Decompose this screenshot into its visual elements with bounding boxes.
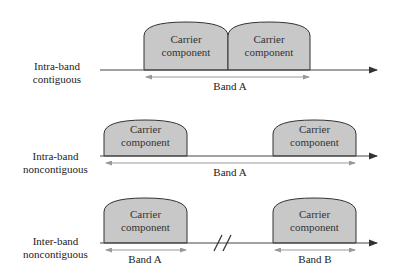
band-b-label: Band B [275,253,355,265]
carrier-component-label: Carrier component [104,208,187,234]
row-label-line: noncontiguous [8,248,103,261]
band-a-label: Band A [105,253,185,265]
cc-line: component [273,136,356,149]
cc-line: component [104,221,187,234]
row-label: Intra-band contiguous [12,60,102,86]
row-label-line: Intra-band [8,150,103,163]
cc-line: component [104,136,187,149]
row-label-line: contiguous [12,73,102,86]
cc-line: component [228,46,310,59]
cc-line: component [144,46,228,59]
carrier-component-label: Carrier component [273,208,356,234]
cc-line: Carrier [104,123,187,136]
cc-line: Carrier [104,208,187,221]
row-label: Intra-band noncontiguous [8,150,103,176]
cc-line: Carrier [228,33,310,46]
band-a-label: Band A [190,166,270,178]
carrier-component-label: Carrier component [228,33,310,59]
carrier-component-label: Carrier component [104,123,187,149]
row-label-line: noncontiguous [8,163,103,176]
cc-line: Carrier [273,208,356,221]
cc-line: Carrier [144,33,228,46]
carrier-component-label: Carrier component [273,123,356,149]
cc-line: component [273,221,356,234]
carrier-component-label: Carrier component [144,33,228,59]
row-label-line: Inter-band [8,235,103,248]
row-label: Inter-band noncontiguous [8,235,103,261]
cc-line: Carrier [273,123,356,136]
row-label-line: Intra-band [12,60,102,73]
band-a-label: Band A [190,80,270,92]
